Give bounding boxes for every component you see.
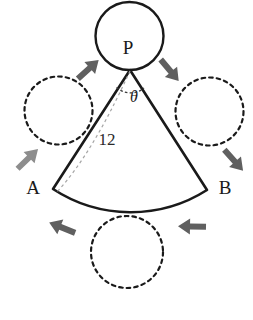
label-radius-12: 12 xyxy=(99,130,116,149)
label-corner-a: A xyxy=(26,177,40,198)
figure-root: P A B 12 θ xyxy=(0,0,253,320)
label-corner-b: B xyxy=(219,177,232,198)
label-angle-theta: θ xyxy=(130,88,138,105)
label-apex-p: P xyxy=(123,37,134,58)
sector-cone-diagram: P A B 12 θ xyxy=(0,0,253,320)
top-solid-circle xyxy=(96,2,164,70)
